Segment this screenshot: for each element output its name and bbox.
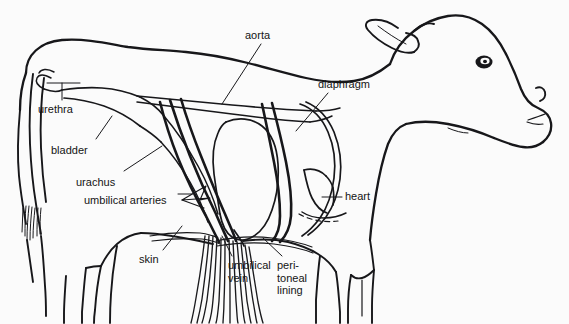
- label-urachus: urachus: [76, 177, 115, 189]
- label-bladder: bladder: [51, 145, 88, 157]
- umbilical-arteries-vessels: [160, 99, 236, 242]
- label-heart: heart: [345, 191, 370, 203]
- label-umbilical-arteries: umbilical arteries: [84, 195, 167, 207]
- label-urethra: urethra: [38, 104, 73, 116]
- leader-aorta: [222, 44, 261, 104]
- bladder-organ: [62, 88, 164, 142]
- calf-eye: [476, 56, 493, 69]
- label-umbilical-vein: umbilical vein: [228, 259, 271, 284]
- label-diaphragm: diaphragm: [318, 79, 370, 91]
- anatomy-diagram: urethra bladder urachus umbilical arteri…: [0, 0, 569, 324]
- calf-head: [366, 15, 551, 240]
- label-skin: skin: [139, 254, 159, 266]
- leader-bladder: [96, 116, 112, 139]
- label-peritoneal-lining: peri- toneal lining: [277, 259, 307, 297]
- label-aorta: aorta: [245, 30, 270, 42]
- leader-diaphragm: [296, 93, 328, 131]
- urethra-structure: [36, 69, 62, 91]
- leader-urachus: [124, 146, 162, 171]
- calf-front-leg: [348, 240, 374, 323]
